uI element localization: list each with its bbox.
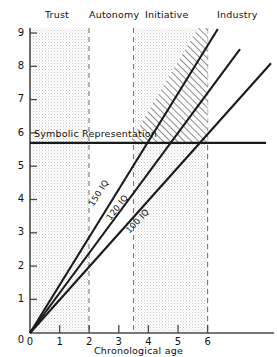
y-tick-label: 6 <box>10 127 24 138</box>
symbolic-representation-label: Symbolic Representation <box>34 128 157 139</box>
chart-plot-area <box>0 0 277 357</box>
stage-label-initiative: Initiative <box>145 9 188 20</box>
y-tick-label: 5 <box>10 160 24 171</box>
y-tick-label: 7 <box>10 93 24 104</box>
stage-label-trust: Trust <box>45 9 69 20</box>
x-axis-title: Chronological age <box>0 345 277 356</box>
y-tick-label: 8 <box>10 60 24 71</box>
y-tick-label: 0 <box>10 334 24 345</box>
y-tick-label: 4 <box>10 193 24 204</box>
y-tick-label: 3 <box>10 226 24 237</box>
stage-label-industry: Industry <box>217 9 258 20</box>
y-tick-label: 2 <box>10 260 24 271</box>
y-tick-label: 9 <box>10 27 24 38</box>
stage-band-trust <box>30 28 89 333</box>
stage-label-autonomy: Autonomy <box>89 9 139 20</box>
y-tick-label: 1 <box>10 293 24 304</box>
chart-figure: Trust Autonomy Initiative Industry 9 8 7… <box>0 0 277 357</box>
